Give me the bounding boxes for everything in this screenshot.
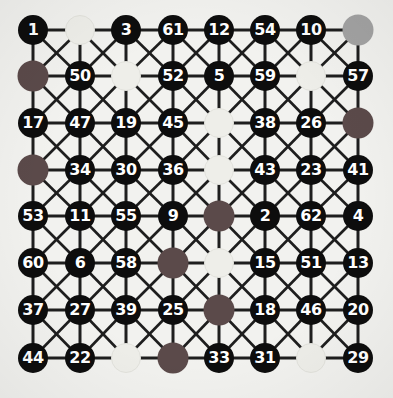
graph-node-18[interactable]: 18: [250, 295, 280, 325]
graph-node-62[interactable]: 62: [296, 201, 326, 231]
graph-node-label: 26: [300, 115, 321, 131]
graph-node-label: 62: [300, 208, 321, 224]
graph-node-label: 12: [208, 22, 229, 38]
graph-node-55[interactable]: 55: [111, 201, 141, 231]
graph-node-cream-r8c7[interactable]: [296, 343, 326, 373]
graph-node-19[interactable]: 19: [111, 108, 141, 138]
graph-node-maroon-r7c5[interactable]: [204, 295, 235, 326]
graph-node-label: 54: [254, 22, 275, 38]
graph-node-cream-r4c5[interactable]: [204, 155, 234, 185]
graph-node-label: 45: [162, 115, 183, 131]
graph-node-label: 57: [347, 68, 368, 84]
graph-node-label: 10: [300, 22, 321, 38]
graph-node-cream-r2c7[interactable]: [296, 61, 326, 91]
graph-node-12[interactable]: 12: [204, 15, 234, 45]
graph-node-9[interactable]: 9: [158, 201, 188, 231]
graph-node-label: 13: [347, 255, 368, 271]
graph-node-label: 41: [347, 162, 368, 178]
graph-node-46[interactable]: 46: [296, 295, 326, 325]
graph-node-maroon-r3c8[interactable]: [343, 108, 374, 139]
graph-node-label: 4: [353, 208, 364, 224]
graph-node-label: 15: [254, 255, 275, 271]
graph-node-58[interactable]: 58: [111, 248, 141, 278]
graph-node-4[interactable]: 4: [343, 201, 373, 231]
graph-node-label: 30: [115, 162, 136, 178]
graph-node-label: 17: [22, 115, 43, 131]
graph-node-label: 9: [168, 208, 179, 224]
graph-node-label: 23: [300, 162, 321, 178]
graph-node-cream-r6c5[interactable]: [204, 248, 234, 278]
graph-node-61[interactable]: 61: [158, 15, 188, 45]
graph-node-label: 53: [22, 208, 43, 224]
graph-node-30[interactable]: 30: [111, 155, 141, 185]
graph-canvas: 1361125410505255957174719453826343036432…: [0, 0, 393, 398]
graph-node-25[interactable]: 25: [158, 295, 188, 325]
graph-node-10[interactable]: 10: [296, 15, 326, 45]
graph-node-label: 55: [115, 208, 136, 224]
graph-node-60[interactable]: 60: [18, 248, 48, 278]
graph-node-33[interactable]: 33: [204, 343, 234, 373]
graph-node-label: 52: [162, 68, 183, 84]
graph-node-1[interactable]: 1: [18, 15, 48, 45]
graph-node-label: 44: [22, 350, 43, 366]
graph-node-54[interactable]: 54: [250, 15, 280, 45]
graph-node-cream-r8c3[interactable]: [111, 343, 141, 373]
graph-node-3[interactable]: 3: [111, 15, 141, 45]
graph-node-26[interactable]: 26: [296, 108, 326, 138]
graph-node-label: 20: [347, 302, 368, 318]
graph-node-label: 18: [254, 302, 275, 318]
graph-node-34[interactable]: 34: [65, 155, 95, 185]
graph-node-45[interactable]: 45: [158, 108, 188, 138]
graph-node-27[interactable]: 27: [65, 295, 95, 325]
graph-node-label: 11: [69, 208, 90, 224]
graph-node-36[interactable]: 36: [158, 155, 188, 185]
graph-node-15[interactable]: 15: [250, 248, 280, 278]
graph-node-50[interactable]: 50: [65, 61, 95, 91]
graph-node-38[interactable]: 38: [250, 108, 280, 138]
graph-node-maroon-r6c4[interactable]: [158, 248, 189, 279]
graph-node-label: 59: [254, 68, 275, 84]
graph-node-59[interactable]: 59: [250, 61, 280, 91]
graph-node-2[interactable]: 2: [250, 201, 280, 231]
graph-node-11[interactable]: 11: [65, 201, 95, 231]
graph-node-cream-r2c3[interactable]: [111, 61, 141, 91]
graph-node-label: 51: [300, 255, 321, 271]
graph-node-51[interactable]: 51: [296, 248, 326, 278]
graph-node-20[interactable]: 20: [343, 295, 373, 325]
graph-node-43[interactable]: 43: [250, 155, 280, 185]
graph-node-maroon-r2c1[interactable]: [18, 61, 49, 92]
graph-node-label: 58: [115, 255, 136, 271]
graph-node-maroon-r8c4[interactable]: [158, 343, 189, 374]
graph-node-53[interactable]: 53: [18, 201, 48, 231]
graph-node-gray-r1c8[interactable]: [343, 15, 374, 46]
graph-node-label: 43: [254, 162, 275, 178]
graph-node-29[interactable]: 29: [343, 343, 373, 373]
graph-node-cream-r3c5[interactable]: [204, 108, 234, 138]
graph-node-label: 60: [22, 255, 43, 271]
graph-node-label: 3: [121, 22, 132, 38]
graph-node-label: 22: [69, 350, 90, 366]
graph-node-39[interactable]: 39: [111, 295, 141, 325]
graph-node-5[interactable]: 5: [204, 61, 234, 91]
graph-node-47[interactable]: 47: [65, 108, 95, 138]
graph-node-label: 36: [162, 162, 183, 178]
graph-node-6[interactable]: 6: [65, 248, 95, 278]
graph-node-maroon-r4c1[interactable]: [18, 155, 49, 186]
graph-node-label: 29: [347, 350, 368, 366]
graph-node-37[interactable]: 37: [18, 295, 48, 325]
graph-node-13[interactable]: 13: [343, 248, 373, 278]
graph-node-label: 5: [214, 68, 225, 84]
graph-node-23[interactable]: 23: [296, 155, 326, 185]
graph-node-22[interactable]: 22: [65, 343, 95, 373]
graph-node-label: 46: [300, 302, 321, 318]
graph-node-31[interactable]: 31: [250, 343, 280, 373]
graph-node-cream-r1c2[interactable]: [65, 15, 95, 45]
graph-node-label: 2: [260, 208, 271, 224]
graph-node-17[interactable]: 17: [18, 108, 48, 138]
graph-node-41[interactable]: 41: [343, 155, 373, 185]
graph-node-label: 37: [22, 302, 43, 318]
graph-node-52[interactable]: 52: [158, 61, 188, 91]
graph-node-44[interactable]: 44: [18, 343, 48, 373]
graph-node-maroon-r5c5[interactable]: [204, 201, 235, 232]
graph-node-57[interactable]: 57: [343, 61, 373, 91]
